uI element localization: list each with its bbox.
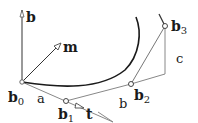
b3-label: b3 <box>171 18 187 36</box>
point-b0 <box>20 80 24 84</box>
normal-vector <box>22 44 60 82</box>
tangent-label: t <box>86 106 93 122</box>
b2-label: b2 <box>134 87 150 105</box>
binormal-label: b <box>26 9 36 25</box>
b0-label: b0 <box>8 89 24 107</box>
bezier-diagram: b m t b0 b1 b2 b3 a b c <box>0 0 198 123</box>
b1-label: b1 <box>58 106 74 123</box>
polygon-line-b1-b2-lower <box>98 112 113 122</box>
segment-a-label: a <box>37 91 45 106</box>
tangent-arrowhead-icon <box>75 103 84 108</box>
normal-label: m <box>63 39 78 55</box>
point-b2 <box>129 82 134 87</box>
bezier-curve <box>22 17 139 86</box>
segment-c-label: c <box>176 51 183 66</box>
segment-b-label: b <box>119 96 127 111</box>
point-b1 <box>64 99 69 104</box>
point-b3 <box>163 24 168 29</box>
binormal-arrowhead-icon <box>20 10 24 17</box>
